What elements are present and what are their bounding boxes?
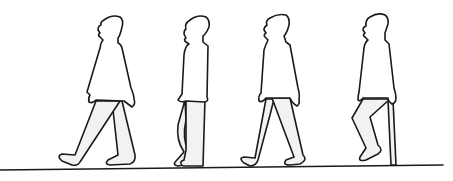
gait-drawing [0,0,453,181]
walking-figure-4 [352,14,396,165]
front-leg [59,101,120,165]
swing-leg [352,99,390,161]
front-leg [272,98,305,165]
stance-leg [388,100,396,165]
walking-gait-illustration: Line drawing of four human silhouettes w… [0,0,453,181]
back-leg [241,99,274,166]
torso-head [87,16,135,107]
torso-head [259,14,300,106]
walking-figure-2 [174,16,209,166]
ground-line [0,165,443,170]
torso-head [178,16,209,102]
walking-figure-3 [241,14,305,166]
torso-head [358,14,396,104]
walking-figure-1 [59,16,135,165]
